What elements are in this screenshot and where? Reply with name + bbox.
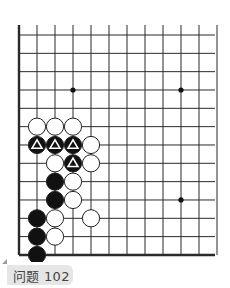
white-stone[interactable] bbox=[46, 155, 63, 172]
white-stone[interactable] bbox=[64, 191, 81, 208]
white-stone-icon bbox=[64, 173, 81, 190]
white-stone-icon bbox=[64, 191, 81, 208]
white-stone[interactable] bbox=[64, 118, 81, 135]
black-stone[interactable] bbox=[28, 228, 45, 245]
black-stone[interactable] bbox=[28, 136, 45, 153]
white-stone-icon bbox=[46, 228, 63, 245]
stones-layer bbox=[28, 118, 99, 262]
black-stone[interactable] bbox=[46, 173, 63, 190]
black-stone[interactable] bbox=[64, 136, 81, 153]
black-stone[interactable] bbox=[28, 246, 45, 262]
white-stone[interactable] bbox=[46, 228, 63, 245]
go-board[interactable] bbox=[0, 0, 230, 262]
black-stone-icon bbox=[46, 173, 63, 190]
white-stone[interactable] bbox=[82, 136, 99, 153]
star-point-icon bbox=[178, 197, 183, 202]
white-stone-icon bbox=[46, 155, 63, 172]
white-stone-icon bbox=[64, 118, 81, 135]
black-stone[interactable] bbox=[28, 210, 45, 227]
black-stone[interactable] bbox=[46, 191, 63, 208]
white-stone-icon bbox=[46, 210, 63, 227]
black-stone-icon bbox=[28, 246, 45, 262]
problem-label: 问题 102 bbox=[13, 266, 70, 285]
label-corner-marker bbox=[2, 259, 7, 264]
white-stone[interactable] bbox=[28, 118, 45, 135]
black-stone-icon bbox=[28, 228, 45, 245]
black-stone-icon bbox=[46, 191, 63, 208]
white-stone[interactable] bbox=[82, 210, 99, 227]
white-stone-icon bbox=[46, 118, 63, 135]
star-point-icon bbox=[70, 87, 75, 92]
white-stone-icon bbox=[28, 118, 45, 135]
black-stone[interactable] bbox=[64, 155, 81, 172]
white-stone[interactable] bbox=[46, 210, 63, 227]
white-stone-icon bbox=[82, 155, 99, 172]
white-stone[interactable] bbox=[46, 118, 63, 135]
white-stone[interactable] bbox=[64, 173, 81, 190]
black-stone[interactable] bbox=[46, 136, 63, 153]
white-stone[interactable] bbox=[82, 155, 99, 172]
white-stone-icon bbox=[82, 210, 99, 227]
black-stone-icon bbox=[28, 210, 45, 227]
white-stone-icon bbox=[82, 136, 99, 153]
star-point-icon bbox=[178, 87, 183, 92]
problem-label-tag: 问题 102 bbox=[7, 265, 73, 285]
